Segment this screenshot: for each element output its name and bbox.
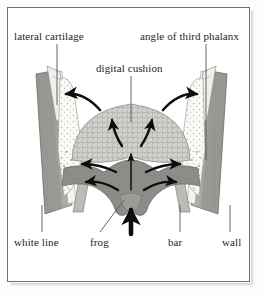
- label-angle-of-third-phalanx: angle of third phalanx: [140, 31, 239, 42]
- label-white-line: white line: [14, 237, 59, 248]
- hoof-diagram-figure: lateral cartilage angle of third phalanx…: [0, 0, 263, 295]
- anatomy-illustration: [0, 0, 263, 295]
- label-wall: wall: [222, 237, 241, 248]
- label-frog: frog: [90, 237, 109, 248]
- label-bar: bar: [168, 237, 182, 248]
- label-lateral-cartilage: lateral cartilage: [14, 31, 84, 42]
- label-digital-cushion: digital cushion: [96, 63, 163, 74]
